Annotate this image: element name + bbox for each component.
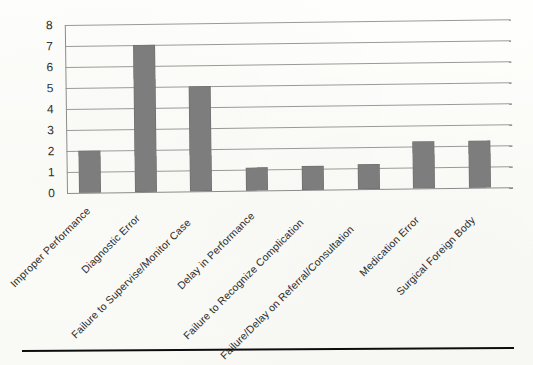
y-tick-label-1: 1 — [48, 166, 55, 178]
bar[interactable] — [78, 151, 101, 193]
y-tick-label-2: 2 — [47, 145, 54, 157]
bar[interactable] — [246, 167, 268, 190]
bar[interactable] — [357, 164, 379, 189]
y-tick-label-3: 3 — [47, 124, 54, 136]
x-axis-label: Failure/Delay on Referral/Consultation — [218, 224, 355, 361]
y-tick-label-8: 8 — [46, 19, 53, 31]
y-tick-label-5: 5 — [47, 82, 54, 94]
x-axis-label: Medication Error — [358, 214, 422, 278]
bar[interactable] — [189, 86, 212, 191]
bar-series — [65, 19, 513, 193]
page-bottom-rule — [22, 347, 514, 352]
bar[interactable] — [468, 140, 491, 188]
bar[interactable] — [413, 141, 436, 189]
x-axis-label: Failure to Recognize Complication — [181, 217, 305, 341]
plot-area — [65, 19, 513, 193]
y-tick-label-6: 6 — [46, 61, 53, 73]
x-axis-label: Improper Performance — [8, 205, 92, 289]
y-axis-tick-labels: 012345678 — [0, 25, 64, 194]
x-axis-label: Diagnostic Error — [79, 212, 141, 274]
bar-chart: 012345678 Improper PerformanceDiagnostic… — [0, 0, 533, 365]
bar[interactable] — [302, 165, 324, 189]
y-tick-label-4: 4 — [47, 103, 54, 115]
bar[interactable] — [133, 45, 157, 192]
y-tick-label-7: 7 — [46, 40, 53, 52]
x-axis-label: Failure to Supervise/Monitor Case — [70, 217, 193, 340]
y-tick-label-0: 0 — [48, 187, 55, 199]
